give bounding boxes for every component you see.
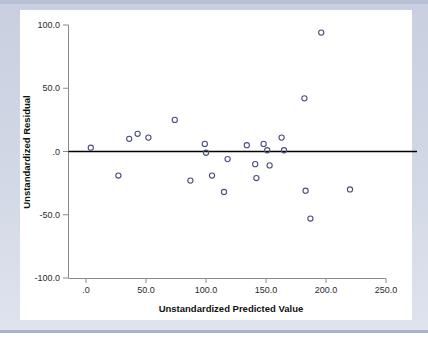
data-point (308, 216, 313, 221)
data-point (319, 30, 324, 35)
x-tick-label: 200.0 (315, 285, 338, 295)
data-point (202, 141, 207, 146)
y-tick-label: 100.0 (37, 20, 60, 30)
y-axis-title: Unstandardized Residual (21, 95, 32, 209)
data-point (279, 135, 284, 140)
data-point (253, 162, 258, 167)
x-tick-label: 150.0 (255, 285, 278, 295)
scatter-chart: 100.050.0.0-50.0-100.0 .050.0100.0150.02… (0, 0, 428, 339)
data-point (221, 189, 226, 194)
data-point (172, 117, 177, 122)
y-axis-ticks (63, 25, 69, 278)
plot-area: 100.050.0.0-50.0-100.0 .050.0100.0150.02… (20, 10, 412, 320)
data-point (225, 156, 230, 161)
data-point (209, 173, 214, 178)
data-point (244, 143, 249, 148)
x-tick-label: 50.0 (137, 285, 155, 295)
data-point (261, 141, 266, 146)
data-point (267, 163, 272, 168)
x-axis-title: Unstandardized Predicted Value (159, 303, 304, 314)
y-tick-label: -50.0 (39, 210, 60, 220)
data-point (127, 136, 132, 141)
data-point (135, 131, 140, 136)
x-tick-label: 250.0 (375, 285, 398, 295)
data-points-group (88, 30, 352, 221)
data-point (146, 135, 151, 140)
data-point (303, 188, 308, 193)
y-tick-label: -100.0 (34, 273, 60, 283)
data-point (347, 187, 352, 192)
y-tick-label: .0 (52, 147, 60, 157)
scatter-plot-screenshot: 100.050.0.0-50.0-100.0 .050.0100.0150.02… (0, 0, 428, 339)
data-point (116, 173, 121, 178)
x-tick-label: .0 (82, 285, 90, 295)
x-axis-ticks (86, 279, 386, 284)
data-point (188, 178, 193, 183)
chart-card: 100.050.0.0-50.0-100.0 .050.0100.0150.02… (20, 10, 412, 320)
data-point (254, 175, 259, 180)
y-tick-labels: 100.050.0.0-50.0-100.0 (34, 20, 60, 283)
x-tick-labels: .050.0100.0150.0200.0250.0 (82, 285, 397, 295)
data-point (302, 96, 307, 101)
x-tick-label: 100.0 (195, 285, 218, 295)
data-point (88, 145, 93, 150)
y-tick-label: 50.0 (42, 83, 60, 93)
